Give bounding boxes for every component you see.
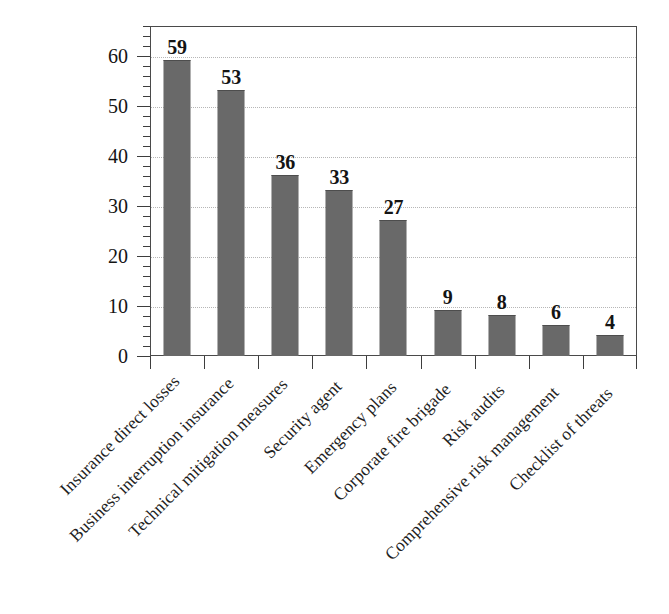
y-axis-tick-label: 30 (108, 196, 128, 216)
y-axis-tick-minor (143, 316, 150, 317)
y-axis-tick-label: 60 (108, 46, 128, 66)
bar-value-label: 33 (330, 167, 350, 187)
bar (164, 60, 191, 356)
y-axis-tick-major (137, 156, 150, 157)
y-axis-tick-minor (143, 296, 150, 297)
y-axis-tick-minor (143, 226, 150, 227)
bar (488, 315, 515, 356)
y-axis-tick-minor (143, 326, 150, 327)
y-axis-tick-label: 40 (108, 146, 128, 166)
bar-value-label: 4 (605, 312, 615, 332)
y-axis-tick-minor (143, 266, 150, 267)
y-axis-tick-minor (143, 46, 150, 47)
y-axis-tick-minor (143, 336, 150, 337)
y-axis: 0102030405060 (0, 26, 150, 356)
y-axis-tick-minor (143, 176, 150, 177)
bar (326, 190, 353, 356)
bar-value-label: 8 (497, 292, 507, 312)
bar-group: 8 (475, 26, 529, 356)
bar-group: 6 (529, 26, 583, 356)
y-axis-tick-minor (143, 76, 150, 77)
bar-group: 4 (583, 26, 637, 356)
bar-group: 9 (421, 26, 475, 356)
bar-group: 33 (312, 26, 366, 356)
y-axis-tick-major (137, 106, 150, 107)
y-axis-tick-major (137, 256, 150, 257)
y-axis-tick-minor (143, 126, 150, 127)
bar-group: 53 (204, 26, 258, 356)
bar-series: 59533633279864 (150, 26, 637, 356)
y-axis-tick-major (137, 56, 150, 57)
y-axis-tick-minor (143, 36, 150, 37)
bar (596, 335, 623, 356)
bar (272, 175, 299, 356)
bar-group: 59 (150, 26, 204, 356)
y-axis-tick-label: 10 (108, 296, 128, 316)
bar-value-label: 6 (551, 302, 561, 322)
y-axis-tick-minor (143, 66, 150, 67)
x-axis-category-labels: Insurance direct lossesBusiness interrup… (0, 356, 669, 614)
bar-value-label: 9 (443, 287, 453, 307)
bar-value-label: 27 (384, 197, 404, 217)
y-axis-tick-minor (143, 216, 150, 217)
y-axis-tick-minor (143, 196, 150, 197)
y-axis-tick-minor (143, 286, 150, 287)
y-axis-tick-minor (143, 246, 150, 247)
bar-value-label: 36 (275, 152, 295, 172)
y-axis-tick-minor (143, 276, 150, 277)
y-axis-tick-minor (143, 346, 150, 347)
bar-chart: 0102030405060 59533633279864 Insurance d… (0, 0, 669, 614)
y-axis-tick-minor (143, 186, 150, 187)
y-axis-tick-label: 20 (108, 246, 128, 266)
y-axis-tick-major (137, 306, 150, 307)
y-axis-tick-minor (143, 236, 150, 237)
y-axis-tick-minor (143, 146, 150, 147)
y-axis-tick-minor (143, 166, 150, 167)
y-axis-tick-minor (143, 86, 150, 87)
bar-group: 27 (366, 26, 420, 356)
y-axis-tick-minor (143, 26, 150, 27)
y-axis-tick-minor (143, 96, 150, 97)
y-axis-tick-minor (143, 116, 150, 117)
bar-value-label: 59 (167, 37, 187, 57)
y-axis-tick-label: 50 (108, 96, 128, 116)
y-axis-tick-major (137, 206, 150, 207)
bar-group: 36 (258, 26, 312, 356)
bar (542, 325, 569, 356)
bar (218, 90, 245, 356)
bar (434, 310, 461, 356)
y-axis-tick-minor (143, 136, 150, 137)
bar-value-label: 53 (221, 67, 241, 87)
bar (380, 220, 407, 356)
